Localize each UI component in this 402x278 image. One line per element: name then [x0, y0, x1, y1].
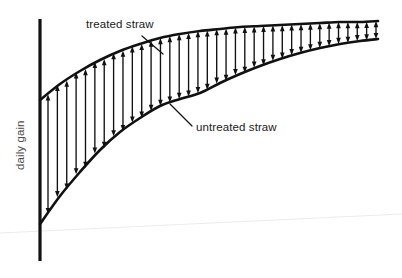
- difference-arrow: [233, 27, 238, 75]
- difference-arrow: [271, 25, 276, 61]
- difference-arrow: [308, 23, 313, 50]
- difference-arrow: [355, 22, 360, 41]
- difference-arrow: [252, 26, 257, 67]
- difference-arrow: [64, 81, 69, 190]
- difference-arrow: [46, 94, 51, 214]
- difference-arrow: [261, 26, 266, 66]
- difference-arrow: [346, 22, 351, 43]
- difference-arrow: [149, 41, 154, 112]
- difference-arrow: [374, 21, 379, 39]
- difference-arrows-group: [46, 21, 379, 214]
- difference-arrow: [327, 23, 332, 47]
- difference-arrow: [102, 59, 107, 148]
- difference-arrow: [336, 22, 341, 44]
- difference-arrow: [243, 27, 248, 73]
- leader-line-untreated-straw: [170, 104, 192, 126]
- annotation-label-treated-straw: treated straw: [86, 18, 154, 30]
- difference-arrow: [55, 85, 60, 198]
- difference-arrow: [168, 36, 173, 103]
- difference-arrow: [205, 30, 210, 90]
- difference-arrow: [186, 33, 191, 97]
- daily-gain-chart: treated straw untreated straw daily gain: [0, 0, 402, 278]
- difference-arrow: [299, 24, 304, 53]
- difference-arrow: [280, 25, 285, 59]
- difference-arrow: [74, 72, 79, 174]
- difference-arrow: [121, 51, 126, 132]
- difference-arrow: [214, 29, 219, 84]
- difference-arrow: [139, 44, 144, 118]
- difference-arrow: [111, 53, 116, 136]
- y-axis-label: daily gain: [14, 120, 26, 170]
- difference-arrow: [196, 31, 201, 93]
- difference-arrow: [158, 38, 163, 106]
- difference-arrow: [93, 62, 98, 154]
- difference-arrow: [317, 23, 322, 48]
- difference-arrow: [130, 46, 135, 122]
- chart-figure: treated straw untreated straw daily gain: [0, 0, 402, 278]
- difference-arrow: [364, 22, 369, 41]
- difference-arrow: [289, 24, 294, 55]
- difference-arrow: [177, 34, 182, 99]
- scan-artifact-line: [0, 214, 402, 233]
- annotation-label-untreated-straw: untreated straw: [196, 121, 277, 133]
- difference-arrow: [83, 69, 88, 168]
- difference-arrow: [224, 29, 229, 81]
